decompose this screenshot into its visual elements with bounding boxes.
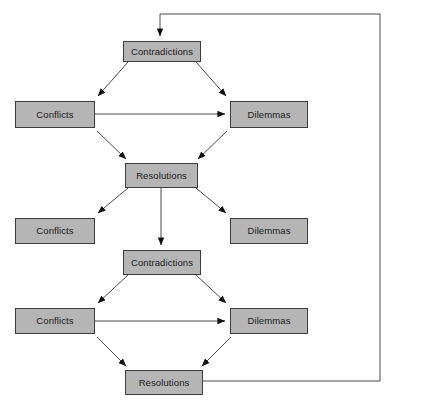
node-label: Resolutions <box>136 171 187 181</box>
node-label: Dilemmas <box>247 316 290 326</box>
edge-contradictions2-to-dilemmas3 <box>196 275 226 303</box>
node-label: Dilemmas <box>247 226 290 236</box>
node-dilemmas-2: Dilemmas <box>230 218 308 244</box>
edge-dilemmas1-to-resolutions1 <box>198 131 227 159</box>
node-label: Dilemmas <box>247 110 290 120</box>
edge-resolutions1-to-dilemmas2 <box>196 188 226 213</box>
node-conflicts-2: Conflicts <box>15 218 95 244</box>
node-conflicts-3: Conflicts <box>15 308 95 334</box>
node-dilemmas-3: Dilemmas <box>230 308 308 334</box>
node-label: Conflicts <box>36 226 73 236</box>
node-label: Conflicts <box>36 316 73 326</box>
node-contradictions-2: Contradictions <box>123 250 201 275</box>
node-label: Contradictions <box>131 258 193 268</box>
edge-dilemmas3-to-resolutions2 <box>202 337 231 366</box>
edge-resolutions1-to-conflicts2 <box>98 188 128 213</box>
node-label: Resolutions <box>139 378 190 388</box>
node-label: Contradictions <box>131 47 193 57</box>
node-conflicts-1: Conflicts <box>15 101 95 128</box>
node-label: Conflicts <box>36 110 73 120</box>
edge-contradictions1-to-dilemmas1 <box>196 62 226 96</box>
node-dilemmas-1: Dilemmas <box>230 101 308 128</box>
edge-conflicts1-to-resolutions1 <box>97 131 126 159</box>
process-cycle-diagram: Contradictions Conflicts Dilemmas Resolu… <box>0 0 422 408</box>
node-contradictions-1: Contradictions <box>123 41 201 62</box>
edge-contradictions1-to-conflicts1 <box>98 62 128 96</box>
diagram-edges-layer <box>0 0 422 408</box>
node-resolutions-2: Resolutions <box>125 370 203 395</box>
edge-contradictions2-to-conflicts3 <box>98 275 128 303</box>
node-resolutions-1: Resolutions <box>125 163 198 188</box>
edge-conflicts3-to-resolutions2 <box>97 337 126 366</box>
